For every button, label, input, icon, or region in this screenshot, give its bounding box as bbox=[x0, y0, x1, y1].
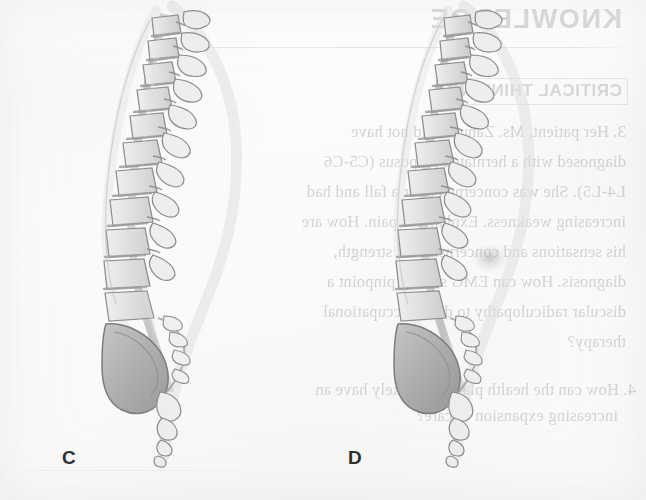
bleed-rule-bottom bbox=[16, 470, 246, 471]
figure-c: C bbox=[60, 0, 290, 470]
scanned-page: KNOWLEDGE CRITICAL THINKING 3. Her patie… bbox=[0, 0, 646, 500]
scan-smudge-d bbox=[470, 243, 510, 273]
spine-illustration-c bbox=[60, 0, 290, 470]
figure-label-c: C bbox=[62, 447, 76, 469]
figure-d: D bbox=[348, 0, 578, 470]
coccyx-c bbox=[154, 392, 181, 467]
coccyx-d bbox=[446, 392, 473, 467]
figure-label-d: D bbox=[348, 447, 362, 469]
spine-illustration-d bbox=[348, 0, 578, 470]
